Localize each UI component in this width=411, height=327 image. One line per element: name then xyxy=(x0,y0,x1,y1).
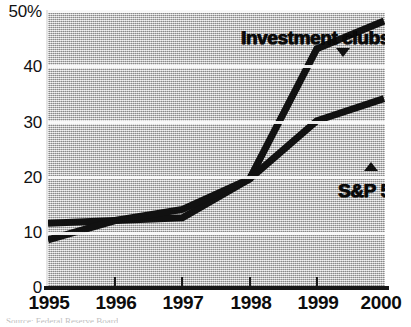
triangle-down-icon xyxy=(336,48,350,57)
gridline-30 xyxy=(48,121,385,124)
gridline-10 xyxy=(48,232,385,235)
x-tick-1996 xyxy=(114,277,116,287)
gridline-40 xyxy=(48,65,385,68)
triangle-up-icon xyxy=(364,162,378,171)
series-lines xyxy=(48,10,385,287)
x-tick-label-1999: 1999 xyxy=(297,292,338,314)
chart-figure: Investment clubs S&P 500 50% 40 30 20 10… xyxy=(0,0,411,327)
series-label-sp500: S&P 500 xyxy=(338,180,385,202)
plot-area: Investment clubs S&P 500 xyxy=(48,10,385,287)
y-tick-label-10: 10 xyxy=(23,223,42,243)
x-tick-1998 xyxy=(249,277,251,287)
x-tick-label-1995: 1995 xyxy=(28,292,69,314)
source-note: Source: Federal Reserve Board xyxy=(6,316,118,323)
gridline-20 xyxy=(48,176,385,179)
x-tick-label-1996: 1996 xyxy=(95,292,136,314)
gridline-50 xyxy=(48,10,385,13)
x-axis-line xyxy=(44,286,389,290)
x-tick-label-1998: 1998 xyxy=(230,292,271,314)
x-tick-1997 xyxy=(181,277,183,287)
x-tick-label-1997: 1997 xyxy=(162,292,203,314)
y-tick-label-40: 40 xyxy=(23,57,42,77)
y-tick-label-30: 30 xyxy=(23,113,42,133)
y-tick-label-20: 20 xyxy=(23,168,42,188)
x-tick-label-2000: 2000 xyxy=(360,292,401,314)
y-tick-label-50: 50% xyxy=(9,2,42,22)
series-label-investment-clubs: Investment clubs xyxy=(241,27,385,49)
y-axis-tick-labels: 50% 40 30 20 10 0 xyxy=(0,0,44,327)
x-tick-1999 xyxy=(316,277,318,287)
y-axis-line xyxy=(46,10,48,287)
